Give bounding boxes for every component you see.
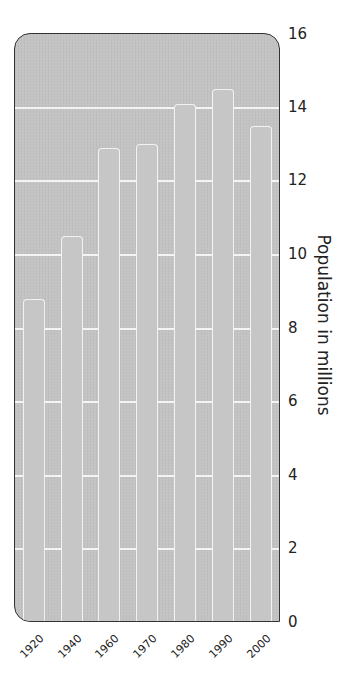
bar-1960 (98, 148, 120, 622)
bar-1940 (61, 236, 83, 622)
gridline (15, 107, 279, 109)
x-tick-label: 1970 (131, 632, 160, 661)
x-tick-label: 1940 (56, 632, 85, 661)
y-tick-label: 6 (288, 392, 298, 410)
bar-1990 (212, 89, 234, 622)
x-tick-label: 1960 (93, 632, 122, 661)
bar-1970 (136, 144, 158, 622)
y-tick-label: 14 (288, 98, 307, 116)
y-tick-label: 4 (288, 466, 298, 484)
chart-plot-area (14, 33, 280, 622)
x-tick-label: 1980 (169, 632, 198, 661)
y-tick-label: 2 (288, 539, 298, 557)
x-tick-label: 1920 (18, 632, 47, 661)
y-axis-label: Population in millions (314, 225, 334, 425)
y-tick-label: 0 (288, 613, 298, 631)
y-tick-label: 16 (288, 25, 307, 43)
y-tick-label: 8 (288, 319, 298, 337)
bar-1980 (174, 104, 196, 622)
x-tick-label: 2000 (245, 632, 274, 661)
bar-2000 (250, 126, 272, 622)
y-tick-label: 12 (288, 171, 307, 189)
bar-1920 (23, 299, 45, 622)
x-tick-label: 1990 (207, 632, 236, 661)
y-tick-label: 10 (288, 245, 307, 263)
